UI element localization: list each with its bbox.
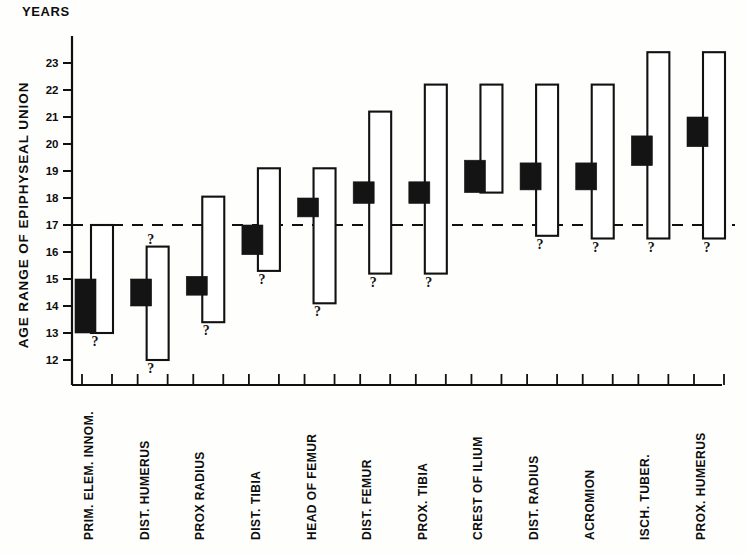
range-bar — [425, 85, 447, 274]
most-frequent-bar — [242, 225, 263, 255]
uncertainty-marker: ? — [147, 232, 154, 247]
uncertainty-marker: ? — [370, 275, 377, 290]
uncertainty-marker: ? — [537, 237, 544, 252]
y-tick-label: 17 — [46, 219, 58, 231]
uncertainty-marker: ? — [147, 361, 154, 376]
y-tick-label: 12 — [46, 354, 58, 366]
category-label: ACROMION — [583, 469, 597, 540]
uncertainty-marker: ? — [314, 304, 321, 319]
category-label: PROX. HUMERUS — [694, 432, 708, 540]
range-bar — [592, 85, 614, 239]
y-tick-label: 18 — [46, 192, 59, 204]
y-tick-label: 19 — [46, 165, 58, 177]
most-frequent-bar — [409, 182, 430, 204]
category-label: DIST. HUMERUS — [138, 440, 152, 540]
y-tick-label: 14 — [46, 300, 59, 312]
category-label: ISCH. TUBER. — [638, 454, 652, 540]
most-frequent-bar — [186, 276, 207, 295]
y-tick-label: 22 — [46, 84, 58, 96]
uncertainty-marker: ? — [648, 240, 655, 255]
y-tick-label: 20 — [46, 138, 58, 150]
y-axis-label: AGE RANGE OF EPIPHYSEAL UNION — [16, 82, 31, 349]
chart-title: YEARS — [22, 4, 70, 19]
most-frequent-bar — [631, 136, 652, 166]
y-tick-label: 16 — [46, 246, 58, 258]
category-label: CREST OF ILIUM — [471, 436, 485, 540]
epiphyseal-union-chart: YEARS AGE RANGE OF EPIPHYSEAL UNION 1213… — [0, 0, 747, 555]
uncertainty-marker: ? — [704, 240, 711, 255]
category-label: PROX. TIBIA — [416, 462, 430, 540]
category-label: HEAD OF FEMUR — [305, 434, 319, 541]
most-frequent-bar — [520, 163, 541, 190]
most-frequent-bar — [464, 160, 485, 192]
y-tick-label: 13 — [46, 327, 58, 339]
most-frequent-bar — [131, 279, 152, 306]
uncertainty-marker: ? — [425, 275, 432, 290]
category-label: DIST. TIBIA — [249, 470, 263, 540]
most-frequent-bar — [75, 279, 96, 333]
category-label: PROX RADIUS — [193, 451, 207, 540]
uncertainty-marker: ? — [592, 240, 599, 255]
uncertainty-marker: ? — [258, 272, 265, 287]
y-tick-label: 21 — [46, 111, 59, 123]
uncertainty-marker: ? — [203, 323, 210, 338]
range-bar — [258, 168, 280, 271]
most-frequent-bar — [576, 163, 597, 190]
category-label: DIST. FEMUR — [360, 459, 374, 540]
category-label: DIST. RADIUS — [527, 455, 541, 540]
most-frequent-bar — [298, 198, 319, 217]
uncertainty-marker: ? — [92, 334, 99, 349]
chart-figure: YEARS AGE RANGE OF EPIPHYSEAL UNION 1213… — [0, 0, 747, 555]
range-bar — [202, 197, 224, 323]
range-bar — [314, 168, 336, 303]
y-tick-label: 23 — [46, 57, 58, 69]
category-label: PRIM. ELEM. INNOM. — [82, 411, 96, 540]
y-tick-label: 15 — [46, 273, 59, 285]
most-frequent-bar — [687, 117, 708, 147]
most-frequent-bar — [353, 182, 374, 204]
range-bar — [536, 85, 558, 236]
